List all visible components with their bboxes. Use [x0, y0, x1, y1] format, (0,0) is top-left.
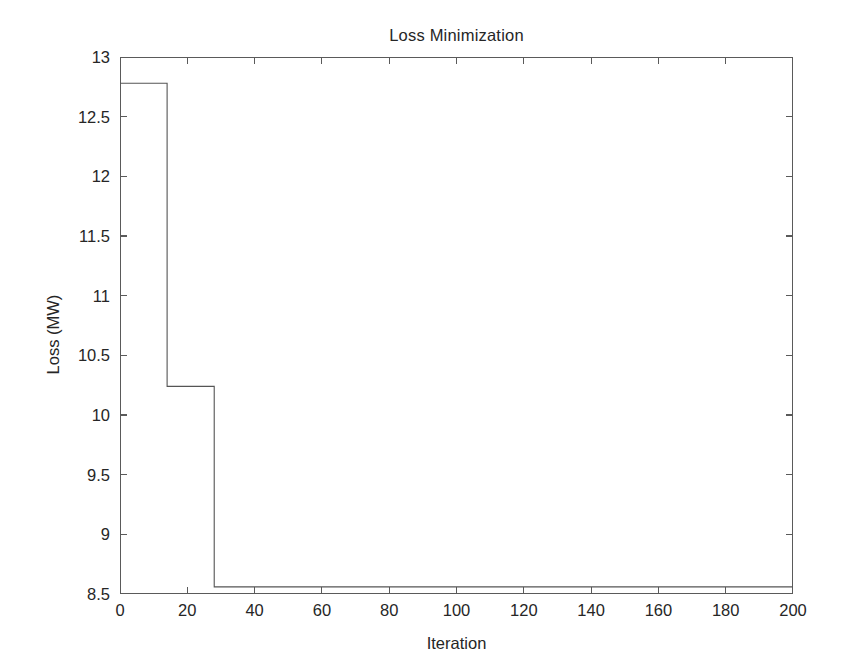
chart-svg-layer	[0, 0, 847, 672]
axis-ticks	[120, 57, 793, 594]
y-tick-label: 11.5	[40, 227, 110, 246]
y-tick-label: 9.5	[40, 465, 110, 484]
series-line	[120, 83, 793, 587]
y-tick-label: 12	[40, 167, 110, 186]
chart-figure: Loss Minimization 8.599.51010.51111.5121…	[0, 0, 847, 672]
y-tick-label: 12.5	[40, 107, 110, 126]
x-tick-label: 200	[753, 601, 833, 620]
y-tick-label: 13	[40, 48, 110, 67]
data-series	[120, 83, 793, 587]
x-axis-title: Iteration	[120, 634, 793, 653]
y-axis-title: Loss (MW)	[44, 245, 63, 425]
y-tick-label: 9	[40, 525, 110, 544]
